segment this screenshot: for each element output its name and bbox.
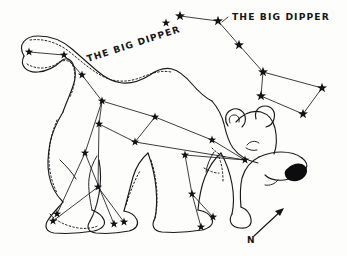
bear-constellation-drawing: THE BIG DIPPER THE BIG DIPPER N (0, 0, 347, 256)
label-big-dipper-standalone: THE BIG DIPPER (232, 11, 330, 22)
compass-north-label: N (247, 235, 255, 245)
illustration-canvas: THE BIG DIPPER THE BIG DIPPER N (0, 0, 347, 256)
